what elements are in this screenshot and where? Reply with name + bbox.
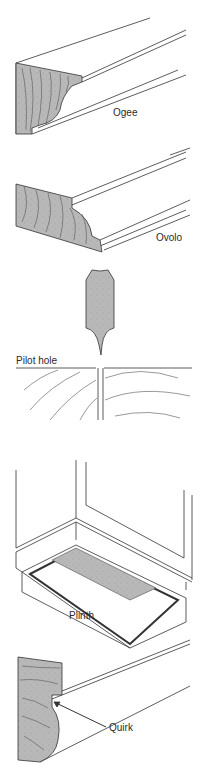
plinth-figure (16, 460, 192, 648)
label-pilot-hole: Pilot hole (16, 355, 57, 366)
label-quirk: Quirk (109, 722, 133, 733)
diagram-canvas (0, 0, 201, 765)
label-ovolo: Ovolo (156, 232, 182, 243)
quirk-figure (18, 640, 190, 762)
pilot-hole-figure (16, 270, 192, 420)
label-plinth: Plinth (69, 610, 94, 621)
ogee-figure (16, 18, 190, 155)
label-ogee: Ogee (113, 107, 137, 118)
